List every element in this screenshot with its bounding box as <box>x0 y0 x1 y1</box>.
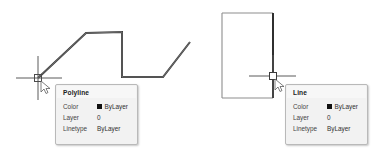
tooltip-row-layer: Layer 0 <box>63 113 130 123</box>
tooltip-key-layer: Layer <box>293 115 327 122</box>
tooltip-key-layer: Layer <box>63 115 97 122</box>
mouse-pointer-left-icon <box>41 81 50 94</box>
color-swatch-icon <box>327 104 332 109</box>
tooltip-value-layer: 0 <box>97 115 101 122</box>
tooltip-value-layer: 0 <box>327 115 331 122</box>
mouse-pointer-right-icon <box>275 79 284 92</box>
color-swatch-icon <box>97 104 102 109</box>
tooltip-key-linetype: Linetype <box>293 126 327 133</box>
tooltip-value-color-text: ByLayer <box>105 104 128 111</box>
tooltip-key-linetype: Linetype <box>63 126 97 133</box>
tooltip-row-linetype: Linetype ByLayer <box>293 124 360 134</box>
rectangle-entity[interactable] <box>222 13 273 98</box>
tooltip-key-color: Color <box>293 104 327 111</box>
tooltip-value-color: ByLayer <box>327 104 358 111</box>
tooltip-title-line: Line <box>293 90 360 97</box>
tooltip-row-color: Color ByLayer <box>293 102 360 112</box>
tooltip-row-color: Color ByLayer <box>63 102 130 112</box>
polyline-entity-highlight <box>38 32 190 78</box>
tooltip-row-layer: Layer 0 <box>293 113 360 123</box>
tooltip-value-linetype: ByLayer <box>327 126 350 133</box>
tooltip-value-linetype: ByLayer <box>97 126 120 133</box>
rollover-tooltip-line: Line Color ByLayer Layer 0 Linetype ByLa… <box>285 84 368 145</box>
cad-canvas-screenshot: Polyline Color ByLayer Layer 0 Linetype … <box>0 0 382 156</box>
tooltip-key-color: Color <box>63 104 97 111</box>
tooltip-row-linetype: Linetype ByLayer <box>63 124 130 134</box>
tooltip-value-color-text: ByLayer <box>335 104 358 111</box>
tooltip-title-polyline: Polyline <box>63 90 130 97</box>
tooltip-value-color: ByLayer <box>97 104 128 111</box>
rollover-tooltip-polyline: Polyline Color ByLayer Layer 0 Linetype … <box>55 84 138 145</box>
